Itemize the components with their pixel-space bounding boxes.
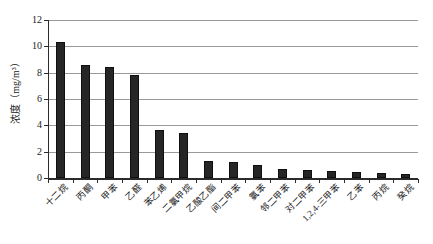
y-axis-tick-label: 10 xyxy=(16,41,42,51)
y-axis-tick-label: 2 xyxy=(16,147,42,157)
x-axis-category-label-text: 丙酮 xyxy=(75,183,94,202)
y-axis-tick-labels: 121086420 xyxy=(12,0,42,244)
y-axis-tick-label: 4 xyxy=(16,120,42,130)
y-axis-tick-mark xyxy=(44,99,49,100)
y-axis-tick-label: 8 xyxy=(16,68,42,78)
y-axis-tick-mark xyxy=(44,46,49,47)
bar xyxy=(105,67,114,178)
y-axis-tick-label: 6 xyxy=(16,94,42,104)
x-axis-category-label-text: 氯苯 xyxy=(248,183,267,202)
y-axis-tick-mark xyxy=(44,125,49,126)
x-axis-category-labels: 十二烷丙酮甲苯乙醛苯乙烯二氯甲烷乙酸乙酯间二甲苯氯苯邻二甲苯对二甲苯1,2,4-… xyxy=(48,183,433,244)
y-axis-tick-mark xyxy=(44,20,49,21)
gridline xyxy=(48,99,418,100)
gridline xyxy=(48,73,418,74)
x-axis-category-label-text: 十二烷 xyxy=(44,183,69,208)
bar-chart: 浓度（mg/m³） 121086420 十二烷丙酮甲苯乙醛苯乙烯二氯甲烷乙酸乙酯… xyxy=(0,0,433,244)
gridline xyxy=(48,125,418,126)
y-axis-tick-mark xyxy=(44,178,49,179)
y-axis-tick-label: 0 xyxy=(16,173,42,183)
x-axis-category-label-text: 丙烷 xyxy=(371,183,390,202)
gridline xyxy=(48,46,418,47)
bar xyxy=(130,75,139,178)
bar xyxy=(56,42,65,178)
x-axis-category-label-text: 甲苯 xyxy=(100,183,119,202)
gridline xyxy=(48,152,418,153)
x-axis-category-label-text: 乙苯 xyxy=(347,183,366,202)
bar xyxy=(81,65,90,178)
y-axis-tick-mark xyxy=(44,73,49,74)
gridline xyxy=(48,20,418,21)
y-axis-tick-mark xyxy=(44,152,49,153)
y-axis-tick-label: 12 xyxy=(16,15,42,25)
x-axis-category-label-text: 癸烷 xyxy=(396,183,415,202)
bar xyxy=(155,130,164,178)
x-axis-category-label-text: 乙醛 xyxy=(125,183,144,202)
